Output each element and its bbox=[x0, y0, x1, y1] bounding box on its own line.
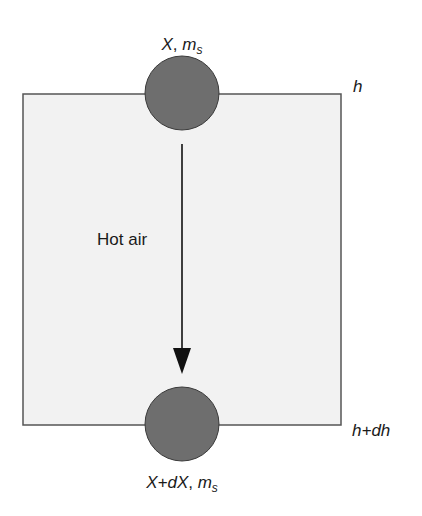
height-bottom-label: h+dh bbox=[352, 421, 390, 440]
solid-particle-bottom-icon bbox=[145, 387, 219, 461]
height-top-label: h bbox=[353, 77, 362, 96]
solid-particle-top-icon bbox=[145, 56, 219, 130]
drying-element-diagram: X, ms X+dX, ms h h+dh Hot air bbox=[0, 0, 422, 516]
top-particle-label: X, ms bbox=[161, 35, 203, 57]
bottom-particle-label: X+dX, ms bbox=[145, 473, 218, 495]
hot-air-label: Hot air bbox=[97, 230, 147, 249]
